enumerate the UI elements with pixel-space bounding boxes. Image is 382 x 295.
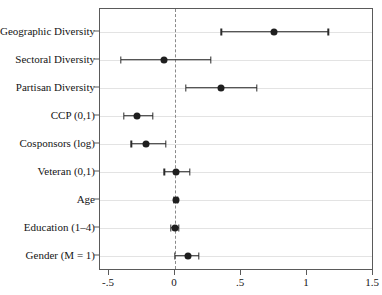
x-axis-tick-mark	[240, 270, 241, 275]
y-axis-tick-label: Gender (M = 1)	[0, 249, 95, 261]
confidence-interval-cap	[164, 168, 165, 175]
point-estimate-marker	[133, 112, 140, 119]
confidence-interval-cap	[198, 252, 199, 259]
x-axis-tick-label: 1	[303, 276, 309, 288]
y-axis-tick-label: Geographic Diversity	[0, 25, 95, 37]
chart-title	[99, 0, 373, 2]
y-axis-tick-label: CCP (0,1)	[0, 109, 95, 121]
x-axis-tick-mark	[306, 270, 307, 275]
x-axis-tick-mark	[174, 270, 175, 275]
point-estimate-marker	[271, 28, 278, 35]
plot-area	[99, 8, 373, 270]
x-axis-tick-label: .5	[236, 276, 244, 288]
point-estimate-marker	[173, 196, 180, 203]
x-axis-tick-label: -.5	[102, 276, 114, 288]
coefficient-plot-figure: Geographic DiversitySectoral DiversityPa…	[0, 0, 382, 295]
point-estimate-marker	[172, 224, 179, 231]
x-axis-tick-label: 0	[171, 276, 177, 288]
confidence-interval-cap	[152, 112, 153, 119]
gridline	[100, 256, 372, 257]
y-axis-tick-label: Sectoral Diversity	[0, 53, 95, 65]
confidence-interval-cap	[185, 84, 186, 91]
point-estimate-marker	[173, 168, 180, 175]
y-axis-tick-label: Veteran (0,1)	[0, 165, 95, 177]
confidence-interval-cap	[165, 140, 166, 147]
x-axis: -.50.511.5	[99, 270, 373, 295]
point-estimate-marker	[218, 84, 225, 91]
y-axis-tick-label: Partisan Diversity	[0, 81, 95, 93]
confidence-interval-cap	[256, 84, 257, 91]
confidence-interval-cap	[210, 56, 211, 63]
y-axis-tick-label: Cosponsors (log)	[0, 137, 95, 149]
y-axis-tick-label: Age	[0, 193, 95, 205]
confidence-interval-cap	[123, 112, 124, 119]
confidence-interval-cap	[131, 140, 132, 147]
confidence-interval-cap	[174, 252, 175, 259]
confidence-interval-cap	[120, 56, 121, 63]
point-estimate-marker	[185, 252, 192, 259]
gridline	[100, 228, 372, 229]
confidence-interval-cap	[220, 28, 221, 35]
gridline	[100, 200, 372, 201]
confidence-interval-cap	[327, 28, 328, 35]
point-estimate-marker	[142, 140, 149, 147]
y-axis-tick-label: Education (1–4)	[0, 221, 95, 233]
confidence-interval-cap	[189, 168, 190, 175]
x-axis-tick-mark	[108, 270, 109, 275]
point-estimate-marker	[161, 56, 168, 63]
gridline	[100, 172, 372, 173]
x-axis-tick-mark	[372, 270, 373, 275]
x-axis-tick-label: 1.5	[365, 276, 379, 288]
